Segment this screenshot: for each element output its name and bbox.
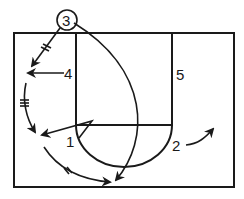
court-boundary [14,33,234,187]
player-5-label: 5 [176,66,184,83]
player-4-label: 4 [64,65,72,82]
pass-wing-down [24,83,35,132]
player-2-label: 2 [172,137,180,154]
court-svg: 3 4 5 1 2 [0,0,244,199]
move-2-path [186,129,213,145]
play-diagram: 3 4 5 1 2 [0,0,244,199]
pass-to-baseline [44,147,110,182]
free-throw-semicircle [76,125,172,167]
lane [76,33,172,125]
player-3-label: 3 [62,12,70,29]
player-1-label: 1 [66,133,74,150]
cut-3-path [74,23,138,180]
